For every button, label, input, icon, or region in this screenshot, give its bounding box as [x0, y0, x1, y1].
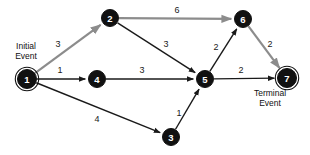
edge-weight-1-2: 3	[55, 39, 60, 49]
edge-weight-2-5: 3	[163, 39, 168, 49]
terminal-event-line-2: Event	[259, 98, 281, 108]
edge-weight-1-4: 1	[57, 65, 62, 75]
node-label-2: 2	[107, 13, 112, 24]
node-3[interactable]: 3	[163, 129, 180, 146]
node-label-5: 5	[202, 74, 208, 85]
node-6[interactable]: 6	[235, 11, 252, 28]
nodes-layer: 1234567	[15, 10, 298, 146]
annotations-layer: InitialEventTerminalEvent	[15, 41, 286, 108]
node-label-6: 6	[240, 14, 245, 25]
initial-event-annotation: InitialEvent	[15, 41, 37, 61]
edge-weight-1-3: 4	[94, 114, 99, 124]
network-diagram-canvas: 3146331222 1234567 InitialEventTerminalE…	[0, 0, 310, 155]
terminal-event-annotation: TerminalEvent	[254, 88, 286, 108]
initial-event-line-1: Initial	[16, 41, 36, 51]
initial-event-line-2: Event	[15, 51, 37, 61]
node-1[interactable]: 1	[15, 67, 38, 90]
edge-1-to-3	[36, 83, 160, 133]
node-7[interactable]: 7	[275, 66, 298, 89]
edge-2-to-5	[118, 23, 196, 73]
node-5[interactable]: 5	[197, 71, 214, 88]
node-4[interactable]: 4	[89, 71, 106, 88]
edge-5-to-7	[214, 78, 274, 79]
node-label-4: 4	[94, 74, 100, 85]
edge-weight-3-5: 1	[176, 108, 181, 118]
edge-1-to-2	[35, 25, 101, 73]
terminal-event-line-1: Terminal	[254, 88, 286, 98]
node-label-1: 1	[24, 74, 30, 85]
edge-weight-6-7: 2	[267, 39, 272, 49]
node-2[interactable]: 2	[102, 10, 119, 27]
edge-weight-4-5: 3	[139, 65, 144, 75]
edge-weight-2-6: 6	[174, 5, 179, 15]
edge-weight-5-6: 2	[213, 42, 218, 52]
edge-2-to-6	[119, 18, 231, 19]
node-label-3: 3	[168, 132, 173, 143]
node-label-7: 7	[284, 73, 289, 84]
network-diagram-svg: 3146331222 1234567 InitialEventTerminalE…	[0, 0, 310, 155]
edge-6-to-7	[248, 26, 279, 68]
edge-weight-5-7: 2	[238, 65, 243, 75]
